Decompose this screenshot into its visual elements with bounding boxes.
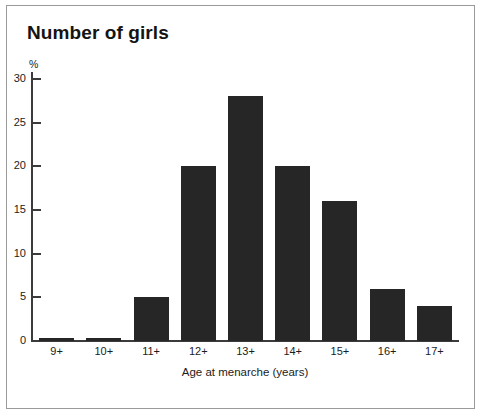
bar [228, 96, 263, 341]
x-axis-tick-label: 16+ [364, 345, 411, 357]
x-axis-tick-label: 11+ [127, 345, 174, 357]
y-axis-tick [33, 122, 41, 124]
plot-area: 051015202530 9+10+11+12+13+14+15+16+17+ [0, 0, 481, 416]
x-axis-tick-label: 9+ [33, 345, 80, 357]
y-axis-tick [33, 296, 41, 298]
bar [86, 338, 121, 341]
y-axis-tick [33, 209, 41, 211]
y-axis-tick-label: 20 [2, 159, 26, 171]
y-axis-tick [33, 253, 41, 255]
bar [275, 166, 310, 341]
x-axis-tick-label: 17+ [411, 345, 458, 357]
x-axis-tick-label: 10+ [80, 345, 127, 357]
bar [370, 289, 405, 341]
y-axis-tick [33, 78, 41, 80]
bar [322, 201, 357, 341]
x-axis-tick-label: 12+ [175, 345, 222, 357]
y-axis-tick-label: 0 [2, 334, 26, 346]
figure: Number of girls % 051015202530 9+10+11+1… [0, 0, 481, 416]
y-axis-tick-label: 5 [2, 290, 26, 302]
bar [417, 306, 452, 341]
x-axis-tick-label: 13+ [222, 345, 269, 357]
x-axis-title: Age at menarche (years) [31, 366, 459, 378]
x-axis-tick-label: 14+ [269, 345, 316, 357]
y-axis-tick-label: 10 [2, 247, 26, 259]
x-axis-tick-label: 15+ [316, 345, 363, 357]
y-axis-tick-label: 15 [2, 203, 26, 215]
bar [39, 338, 74, 341]
y-axis-tick-label: 25 [2, 116, 26, 128]
bar [134, 297, 169, 341]
y-axis-line [31, 72, 33, 342]
y-axis-tick [33, 165, 41, 167]
y-axis-tick-label: 30 [2, 72, 26, 84]
bar [181, 166, 216, 341]
